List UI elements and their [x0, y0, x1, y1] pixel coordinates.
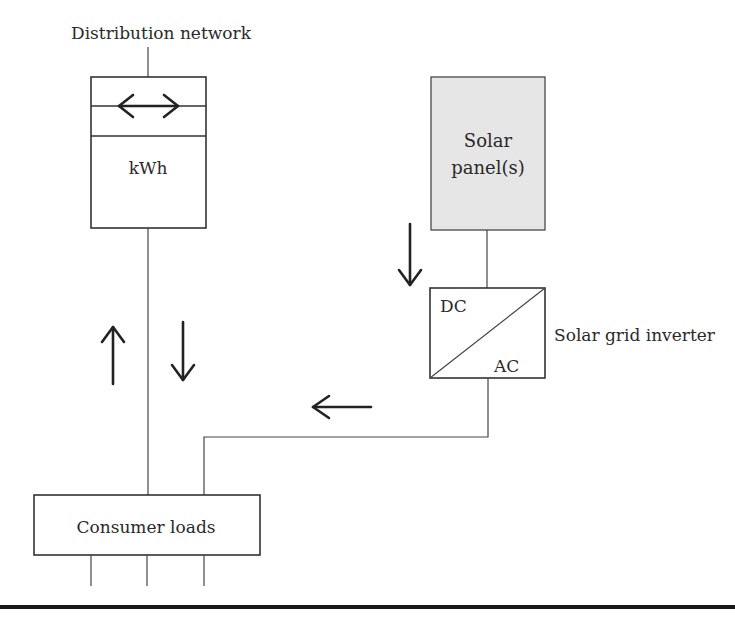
up-arrow-icon — [102, 327, 124, 384]
ac-wire — [204, 378, 488, 495]
down-arrow-icon — [172, 322, 194, 380]
panel-down-arrow-icon — [399, 224, 421, 285]
solar-panel-label-line1: Solar — [464, 130, 513, 151]
distribution-network-label: Distribution network — [71, 23, 252, 43]
solar-panel-label-line2: panel(s) — [451, 157, 525, 178]
meter-box — [91, 77, 206, 228]
inverter-label: Solar grid inverter — [554, 325, 716, 345]
meter-kwh-label: kWh — [129, 158, 168, 178]
left-arrow-icon — [313, 396, 371, 418]
solar-system-diagram: Distribution network kWh Solar panel(s) — [0, 0, 735, 624]
solar-panel: Solar panel(s) — [431, 77, 545, 230]
energy-meter: kWh — [91, 77, 206, 228]
consumer-loads-label: Consumer loads — [77, 517, 216, 537]
consumer-loads: Consumer loads — [34, 495, 260, 555]
inverter-dc-label: DC — [440, 296, 467, 316]
solar-grid-inverter: DC AC — [430, 288, 545, 378]
solar-panel-box — [431, 77, 545, 230]
inverter-ac-label: AC — [493, 356, 519, 376]
